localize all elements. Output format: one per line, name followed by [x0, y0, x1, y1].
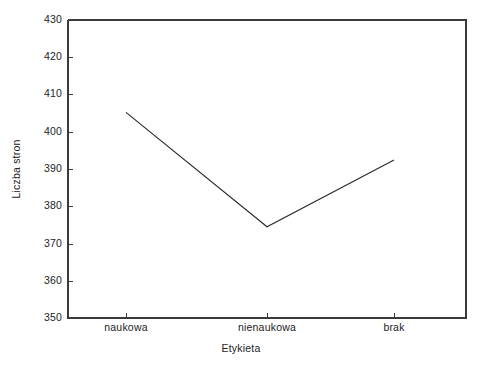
ytick-label-390: 390: [20, 163, 62, 174]
ytick-label-360: 360: [20, 275, 62, 286]
ytick-label-410: 410: [20, 88, 62, 99]
ytick-label-370: 370: [20, 238, 62, 249]
plot-frame: [68, 20, 466, 318]
plot-canvas: [0, 0, 482, 372]
ytick-label-380: 380: [20, 200, 62, 211]
x-axis-title: Etykieta: [0, 342, 482, 354]
chart-figure: 430 420 410 400 390 380 370 360 350 nauk…: [0, 0, 482, 372]
xtick-label-nienaukowa: nienaukowa: [197, 322, 337, 333]
series-line-liczba-stron: [126, 112, 394, 226]
xtick-label-brak: brak: [324, 322, 464, 333]
y-tick-marks: [68, 20, 73, 318]
x-tick-marks: [126, 313, 394, 318]
xtick-label-naukowa: naukowa: [56, 322, 196, 333]
y-axis-title: Liczba stron: [10, 89, 22, 249]
ytick-label-400: 400: [20, 126, 62, 137]
ytick-label-430: 430: [20, 14, 62, 25]
ytick-label-420: 420: [20, 51, 62, 62]
